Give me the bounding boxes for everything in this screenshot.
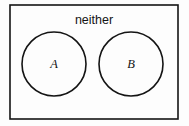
set-a-label: A — [49, 57, 58, 71]
venn-diagram-canvas: neither A B — [0, 0, 189, 126]
set-b-label: B — [127, 57, 135, 71]
venn-diagram: neither A B — [0, 0, 189, 126]
universal-set-label: neither — [75, 13, 113, 27]
